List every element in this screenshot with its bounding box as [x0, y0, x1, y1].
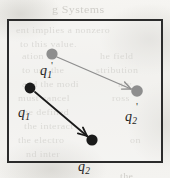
ghost-text-line: the	[120, 171, 133, 178]
charge-label-subscript: 2	[85, 166, 90, 176]
charge-label-q2: q2	[78, 160, 90, 176]
charge-label-subscript: 2	[132, 116, 137, 126]
charge-label-q2-prime: q2	[125, 110, 137, 126]
charge-label-prime-q2-prime: '	[136, 101, 138, 112]
ghost-text-line: g Systems	[52, 3, 105, 17]
charge-label-subscript: 1	[47, 70, 52, 80]
charge-label-base: q	[40, 63, 47, 78]
charge-displacement-figure: g Systemsent implies a nonzeroto this va…	[0, 0, 170, 178]
charge-label-q1: q1	[18, 106, 30, 122]
charge-label-base: q	[18, 105, 25, 120]
figure-frame-border	[7, 19, 163, 163]
charge-label-base: q	[125, 109, 132, 124]
charge-label-subscript: 1	[25, 112, 30, 122]
charge-label-base: q	[78, 159, 85, 174]
charge-label-prime-q1-prime: '	[51, 60, 53, 71]
